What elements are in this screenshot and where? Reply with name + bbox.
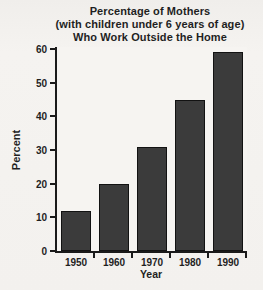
y-tick-0 <box>50 250 57 252</box>
chart-title-line-2: (with children under 6 years of age) <box>35 18 263 31</box>
y-tick-label-40: 40 <box>25 111 47 122</box>
y-tick-label-30: 30 <box>25 145 47 156</box>
x-tick-5 <box>245 251 247 258</box>
y-tick-40 <box>50 115 57 117</box>
x-tick-1 <box>93 251 95 258</box>
y-tick-30 <box>50 149 57 151</box>
y-tick-label-50: 50 <box>25 78 47 89</box>
chart-title-line-1: Percentage of Mothers <box>35 5 263 18</box>
y-axis-label: Percent <box>10 105 24 195</box>
y-tick-50 <box>50 82 57 84</box>
x-tick-label-1960: 1960 <box>103 257 125 268</box>
x-axis-label: Year <box>55 268 247 280</box>
bar-1980 <box>175 100 205 252</box>
y-tick-label-0: 0 <box>25 246 47 257</box>
plot-area: Percent 01020304050601950196019701980199… <box>55 47 247 253</box>
x-tick-2 <box>131 251 133 258</box>
x-tick-label-1990: 1990 <box>217 257 239 268</box>
y-tick-10 <box>50 216 57 218</box>
bar-1970 <box>137 147 167 251</box>
scanned-chart-figure: Percentage of Mothers (with children und… <box>0 0 263 290</box>
x-tick-label-1980: 1980 <box>179 257 201 268</box>
y-tick-60 <box>50 48 57 50</box>
y-tick-label-10: 10 <box>25 212 47 223</box>
chart-title-line-3: Who Work Outside the Home <box>35 31 263 44</box>
x-tick-label-1970: 1970 <box>141 257 163 268</box>
bar-1960 <box>99 184 129 251</box>
x-tick-label-1950: 1950 <box>65 257 87 268</box>
y-tick-20 <box>50 183 57 185</box>
x-tick-4 <box>207 251 209 258</box>
y-tick-label-60: 60 <box>25 44 47 55</box>
bar-1990 <box>213 52 243 251</box>
chart-title: Percentage of Mothers (with children und… <box>35 5 263 43</box>
x-tick-3 <box>169 251 171 258</box>
y-tick-label-20: 20 <box>25 179 47 190</box>
bar-1950 <box>61 211 91 251</box>
